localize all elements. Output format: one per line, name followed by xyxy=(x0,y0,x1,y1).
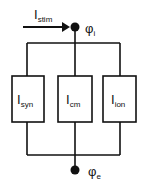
label-phi-e: φe xyxy=(88,165,101,181)
bottom-node-dot xyxy=(71,166,80,175)
stim-arrow-head-icon xyxy=(62,22,70,32)
label-i-syn: Isyn xyxy=(17,93,33,109)
label-phi-i: φi xyxy=(85,22,95,38)
label-i-cm: Icm xyxy=(66,93,80,109)
label-i-stim: Istim xyxy=(34,8,52,24)
label-i-ion: Iion xyxy=(111,93,125,109)
